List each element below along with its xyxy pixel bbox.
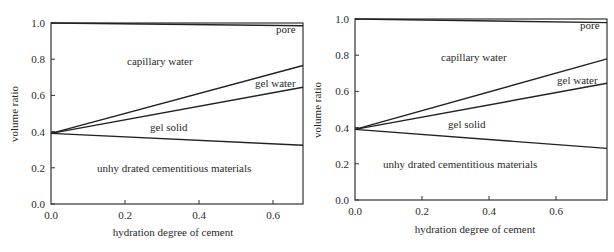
label-gel-water: gel water [557, 74, 598, 86]
x-axis-title: hydration degree of cement [113, 226, 234, 238]
x-axis-title: hydration degree of cement [415, 223, 536, 235]
y-axis: 0.0 0.2 0.4 0.6 0.8 1.0 volume ratio [8, 17, 55, 210]
x-tick-label: 0.6 [266, 209, 280, 221]
y-tick-label: 0.8 [335, 49, 349, 61]
y-tick-label: 0.4 [31, 126, 45, 138]
x-tick-label: 0.2 [415, 205, 429, 217]
plot-frame [51, 23, 303, 204]
x-tick-label: 0.4 [482, 205, 496, 217]
y-axis-title: volume ratio [311, 82, 323, 138]
label-gel-solid: gel solid [150, 121, 188, 133]
x-tick-label: 0.2 [118, 209, 132, 221]
y-tick-label: 1.0 [335, 13, 349, 25]
x-tick-label: 0.4 [192, 209, 206, 221]
x-tick-label: 0.6 [549, 205, 563, 217]
y-tick-label: 1.0 [31, 17, 45, 29]
label-gel-solid: gel solid [448, 118, 486, 130]
right-chart: 0.0 0.2 0.4 0.6 0.8 1.0 volume ratio 0.0… [311, 13, 607, 235]
y-axis-title: volume ratio [8, 86, 20, 142]
plot-frame [355, 19, 607, 200]
x-axis: 0.0 0.2 0.4 0.6 hydration degree of ceme… [44, 200, 280, 238]
figure: 0.0 0.2 0.4 0.6 0.8 1.0 volume ratio 0.0… [0, 0, 614, 252]
label-capillary-water: capillary water [441, 51, 507, 63]
region-labels: pore capillary water gel water gel solid… [383, 19, 600, 170]
label-gel-water: gel water [255, 77, 296, 89]
y-tick-label: 0.4 [335, 122, 349, 134]
label-unhydrated: unhy drated cementitious materials [97, 162, 251, 174]
x-axis: 0.0 0.2 0.4 0.6 hydration degree of ceme… [348, 196, 563, 235]
y-tick-label: 0.8 [31, 53, 45, 65]
y-tick-label: 0.2 [31, 162, 45, 174]
y-tick-label: 0.2 [335, 158, 349, 170]
gelsolid-unhydrated-boundary-line [355, 129, 607, 148]
y-tick-label: 0.6 [335, 85, 349, 97]
region-labels: pore capillary water gel water gel solid… [97, 23, 296, 174]
label-unhydrated: unhy drated cementitious materials [383, 158, 537, 170]
x-tick-label: 0.0 [44, 209, 58, 221]
y-tick-label: 0.6 [31, 89, 45, 101]
gelsolid-unhydrated-boundary-line [51, 133, 303, 145]
label-capillary-water: capillary water [127, 55, 193, 67]
y-axis: 0.0 0.2 0.4 0.6 0.8 1.0 volume ratio [311, 13, 359, 206]
label-pore: pore [580, 19, 600, 31]
left-chart: 0.0 0.2 0.4 0.6 0.8 1.0 volume ratio 0.0… [8, 17, 303, 238]
label-pore: pore [276, 23, 296, 35]
x-tick-label: 0.0 [348, 205, 362, 217]
